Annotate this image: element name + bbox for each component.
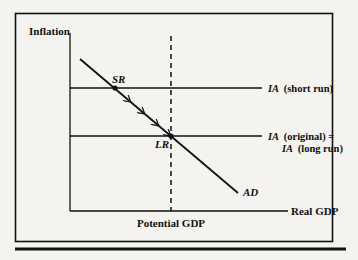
- sr-label: SR: [112, 73, 125, 85]
- ia-short-run-label: IA (short run): [267, 83, 334, 95]
- ad-curve: [80, 59, 238, 193]
- sr-point: [112, 85, 117, 90]
- lr-label: LR: [154, 138, 169, 150]
- ia-original-label: IA (original) =: [267, 131, 334, 143]
- diagram-frame: [16, 14, 333, 242]
- lr-point: [168, 133, 173, 138]
- ia-long-run-label: IA (long run): [281, 143, 343, 155]
- x-axis-label: Real GDP: [291, 205, 339, 217]
- potential-gdp-label: Potential GDP: [137, 217, 205, 229]
- y-axis-label: Inflation: [29, 25, 70, 37]
- adjustment-arrows: [115, 89, 170, 136]
- inflation-ad-diagram: Inflation Real GDP Potential GDP SR LR A…: [0, 0, 358, 260]
- ad-label: AD: [242, 186, 258, 198]
